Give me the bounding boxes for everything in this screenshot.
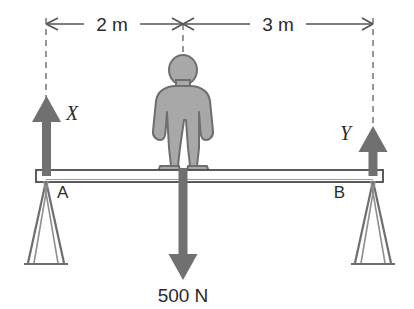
physics-force-diagram: 2 m 3 m <box>0 0 414 309</box>
down-arrow-icon <box>169 254 198 280</box>
dimension-right-span: 3 m <box>183 13 373 35</box>
dimension-label-right: 3 m <box>262 14 294 35</box>
person-body <box>153 86 213 166</box>
trestle-left-leg-outer-left <box>28 181 46 263</box>
weight-shaft <box>179 168 188 256</box>
person-figure-icon <box>153 55 213 172</box>
force-label-X: X <box>65 102 79 124</box>
diagram-canvas: 2 m 3 m <box>0 0 414 309</box>
trestle-support-left: A <box>24 181 69 264</box>
force-arrow-weight: 500 N <box>158 168 209 306</box>
dimension-label-left: 2 m <box>96 14 128 35</box>
force-shaft-right <box>369 148 378 176</box>
force-label-Y: Y <box>340 122 353 144</box>
up-arrow-icon-left <box>32 96 61 122</box>
trestle-right-leg-outer-left <box>355 181 373 263</box>
trestle-support-right: B <box>334 181 395 264</box>
force-arrow-right-Y: Y <box>340 122 388 176</box>
force-shaft-left <box>42 118 51 176</box>
force-arrow-left-X: X <box>32 96 79 176</box>
dimension-left-span: 2 m <box>46 13 183 35</box>
plank-body <box>36 170 383 182</box>
support-label-B: B <box>334 183 345 202</box>
trestle-right-leg-outer-right <box>373 181 391 263</box>
support-label-A: A <box>57 183 69 202</box>
up-arrow-icon-right <box>359 126 388 152</box>
weight-label: 500 N <box>158 285 209 306</box>
plank-beam <box>36 170 383 182</box>
